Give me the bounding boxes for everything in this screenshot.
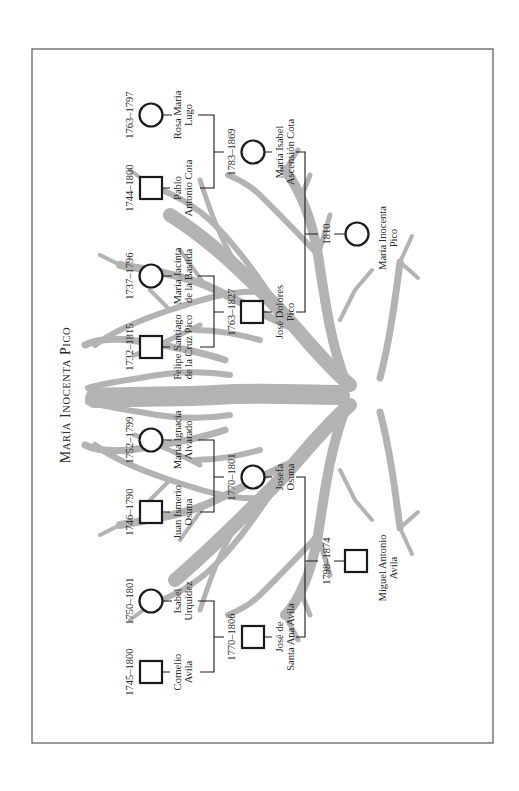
male-square-icon [140,177,162,199]
person-name-line2: Ascensión Cota [285,119,296,186]
person-dates: 1783–1869 [226,128,237,175]
person-name-line1: Juan Ismerio [172,485,183,539]
person-dates: 1763–1797 [124,91,135,138]
person-name-line2: Alvarado [183,420,194,459]
person-dates: 1798–1874 [321,537,332,585]
person-name-line1: Josefa [274,464,285,491]
person-maria-jacinta-de-la-bastida[interactable]: 1737–1796 María Jacinta de la Bastida [124,247,194,304]
family-tree-diagram: MARÍA INOCENTA PICO 1763–1797 Rosa María… [0,0,519,791]
person-name-line2: Avila [183,660,194,683]
person-name-line2: Antonio Cota [183,159,194,216]
person-maria-isabel-ascension-cota[interactable]: 1783–1869 María Isabel Ascensión Cota [226,119,296,186]
person-name-line2: Santa Ana Avila [285,603,296,671]
female-circle-icon [140,265,163,288]
person-dates: 1810 [321,224,332,245]
person-name-line1: María Isabel [274,126,285,179]
person-isabel-urquidez[interactable]: 1750–1801 Isabel Urquidez [124,577,194,624]
person-dates: 1746–1790 [124,488,135,535]
person-dates: 1770–1806 [226,613,237,660]
female-circle-icon [242,141,265,164]
person-name-line2: Pico [285,303,296,322]
person-name-line1: María Jacinta [172,247,183,304]
person-name-line2: Urquidez [183,581,194,620]
male-square-icon [140,661,162,683]
person-name-line2: Osuna [285,463,296,490]
female-circle-icon [140,590,163,613]
person-name-line2: de la Cruz Pico [183,315,194,379]
person-cornelio-avila[interactable]: 1745–1800 Cornelio Avila [124,648,194,695]
person-dates: 1770–1801 [226,453,237,500]
person-name-line1: Felipe Santiago [172,314,183,380]
person-maria-inocenta-pico[interactable]: 1810 María Inocenta Pico [321,206,399,270]
person-dates: 1745–1800 [124,648,135,695]
person-name-line1: María Inocenta [377,206,388,270]
male-square-icon [140,501,162,523]
person-dates: 1752–1799 [124,416,135,463]
person-name-line1: Cornelio [172,654,183,691]
person-name-line1: José Dolores [274,285,285,339]
person-name-line1: Pablo [172,176,183,200]
female-circle-icon [242,466,265,489]
person-name-line1: Isabel [172,588,183,613]
person-dates: 1763–1827 [226,288,237,335]
male-square-icon [345,550,367,572]
male-square-icon [140,336,162,358]
female-circle-icon [140,104,163,127]
person-name-line1: José de [274,621,285,652]
male-square-icon [241,301,263,323]
tree-silhouette-icon [85,150,457,640]
person-name-line1: Miguel Antonio [377,535,388,602]
person-name-line2: Lugo [183,104,194,126]
person-pablo-antonio-cota[interactable]: 1744–1800 Pablo Antonio Cota [124,159,194,216]
person-dates: 1750–1801 [124,577,135,624]
person-rosa-maria-lugo[interactable]: 1763–1797 Rosa María Lugo [124,90,194,139]
person-dates: 1732–1815 [124,323,135,370]
female-circle-icon [346,223,369,246]
person-name-line2: Osuna [183,498,194,525]
person-name-line1: Rosa María [172,90,183,139]
person-dates: 1744–1800 [124,164,135,211]
person-name-line2: de la Bastida [183,249,194,304]
person-name-line2: Avila [388,556,399,579]
person-miguel-antonio-avila[interactable]: 1798–1874 Miguel Antonio Avila [321,535,399,602]
male-square-icon [242,626,264,648]
chart-title: MARÍA INOCENTA PICO [58,327,73,463]
person-name-line1: María Ignacia [172,410,183,469]
person-dates: 1737–1796 [124,252,135,299]
female-circle-icon [140,429,163,452]
person-name-line2: Pico [388,229,399,248]
person-felipe-santiago-de-la-cruz-pico[interactable]: 1732–1815 Felipe Santiago de la Cruz Pic… [124,314,194,380]
